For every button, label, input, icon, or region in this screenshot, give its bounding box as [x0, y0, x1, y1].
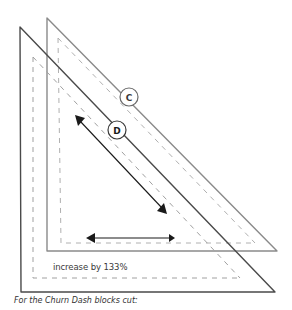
label-d: D [113, 126, 120, 136]
template-d-outline [20, 27, 275, 292]
figure-caption: For the Churn Dash blocks cut: [14, 296, 138, 305]
arrowhead-right-icon [169, 234, 175, 242]
horizontal-measure-arrow [86, 233, 175, 243]
label-d-badge: D [108, 121, 126, 139]
template-d [20, 27, 275, 292]
template-d-seam-diagonal [33, 57, 240, 278]
template-c [47, 18, 277, 251]
template-c-seam-diagonal [58, 38, 255, 243]
template-c-outline [47, 18, 277, 251]
label-c-badge: C [120, 88, 138, 106]
increase-annotation: increase by 133% [53, 262, 127, 272]
label-c: C [126, 93, 133, 103]
arrowhead-left-icon [86, 233, 95, 243]
triangle-template-diagram: C D [0, 0, 292, 310]
